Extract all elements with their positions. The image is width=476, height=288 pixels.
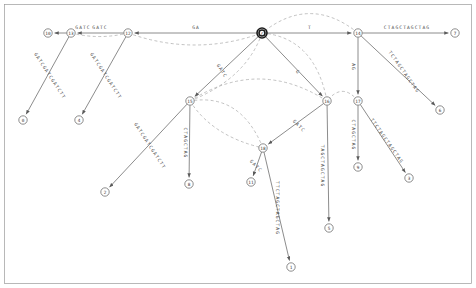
node-label: 0 — [22, 118, 25, 123]
graph-node-3[interactable]: 3 — [405, 174, 413, 182]
node-label: 9 — [357, 165, 360, 170]
diagram-canvas: GAGATCGATCTCTAGCTAGCTAGGATCGATCGATCTTGAT… — [0, 0, 476, 288]
edge-label: GA — [192, 25, 200, 30]
edge-label: TAGCTAGCTAG — [320, 145, 325, 188]
graph-node-5[interactable]: 5 — [325, 224, 333, 232]
node-label: 7 — [454, 31, 457, 36]
edge-label: TTCTAGCTAGCTAG — [369, 117, 404, 164]
edge-label: GATC — [216, 63, 229, 79]
graph-node-7[interactable]: 7 — [451, 29, 459, 37]
suffix-link — [190, 101, 263, 148]
graph-node-1[interactable]: 1 — [287, 263, 295, 271]
suffix-tree-graph: GAGATCGATCTCTAGCTAGCTAGGATCGATCGATCTTGAT… — [0, 0, 476, 288]
suffix-link — [262, 14, 358, 33]
node-label: 13 — [68, 31, 74, 36]
diagram-border — [5, 5, 472, 284]
graph-node-18[interactable]: 18 — [259, 144, 267, 152]
graph-node-11[interactable]: 11 — [247, 178, 255, 186]
graph-node-17[interactable]: 17 — [354, 97, 362, 105]
node-label: 18 — [260, 146, 266, 151]
suffix-link — [190, 79, 327, 101]
graph-node-15[interactable]: 15 — [186, 97, 194, 105]
tree-edge-layer — [26, 33, 448, 261]
node-label: 8 — [188, 182, 191, 187]
tree-edge — [361, 36, 435, 106]
graph-node-10[interactable]: 10 — [44, 29, 52, 37]
edge-label: GATC — [292, 119, 306, 133]
tree-edge — [265, 37, 322, 97]
suffix-link — [327, 91, 358, 101]
suffix-link-layer — [71, 14, 358, 148]
node-label: 4 — [78, 118, 81, 123]
edge-label: TTCTAGCTAGCTAG — [275, 181, 280, 235]
edge-label: GATC — [249, 159, 263, 173]
graph-node-8[interactable]: 8 — [185, 180, 193, 188]
edge-label: CTAGCTAG — [351, 120, 356, 151]
node-label: 10 — [45, 31, 51, 36]
node-label: 14 — [355, 31, 361, 36]
edge-label: GATC — [92, 25, 107, 30]
edge-label: GATCGATCGATCTT — [133, 122, 167, 170]
edge-label: CTAGCTAG — [183, 128, 188, 159]
tree-edge — [195, 36, 259, 96]
node-label: 17 — [355, 99, 361, 104]
node-label: 16 — [324, 99, 330, 104]
graph-node-0[interactable]: 0 — [19, 116, 27, 124]
node-label: 6 — [439, 108, 442, 113]
edge-label: TCTAGCTAGCTAG — [388, 50, 421, 94]
node-label: 2 — [104, 190, 107, 195]
graph-node-12[interactable]: 12 — [124, 29, 132, 37]
graph-node-r[interactable]: r — [257, 28, 267, 38]
edge-label: GATC — [75, 25, 90, 30]
graph-node-16[interactable]: 16 — [323, 97, 331, 105]
tree-edge — [327, 105, 329, 221]
graph-node-6[interactable]: 6 — [436, 106, 444, 114]
node-label: 5 — [328, 226, 331, 231]
suffix-link — [71, 33, 128, 37]
node-label: 12 — [125, 31, 131, 36]
edge-label: T — [308, 25, 312, 30]
graph-node-14[interactable]: 14 — [354, 29, 362, 37]
node-label: 3 — [408, 176, 411, 181]
graph-node-2[interactable]: 2 — [101, 188, 109, 196]
node-label: r — [261, 31, 264, 36]
suffix-link — [190, 100, 263, 148]
edge-label: CTAGCTAGCTAG — [384, 25, 430, 30]
node-label: 15 — [187, 99, 193, 104]
node-label: 1 — [290, 265, 293, 270]
edge-label: AG — [351, 63, 356, 71]
node-label: 11 — [248, 180, 254, 185]
edge-label-layer: GAGATCGATCTCTAGCTAGCTAGGATCGATCGATCTTGAT… — [33, 25, 430, 236]
edge-label: G — [295, 69, 301, 75]
graph-node-9[interactable]: 9 — [354, 163, 362, 171]
tree-edge — [189, 105, 190, 177]
suffix-link — [128, 33, 262, 45]
graph-node-4[interactable]: 4 — [75, 116, 83, 124]
graph-node-13[interactable]: 13 — [67, 29, 75, 37]
